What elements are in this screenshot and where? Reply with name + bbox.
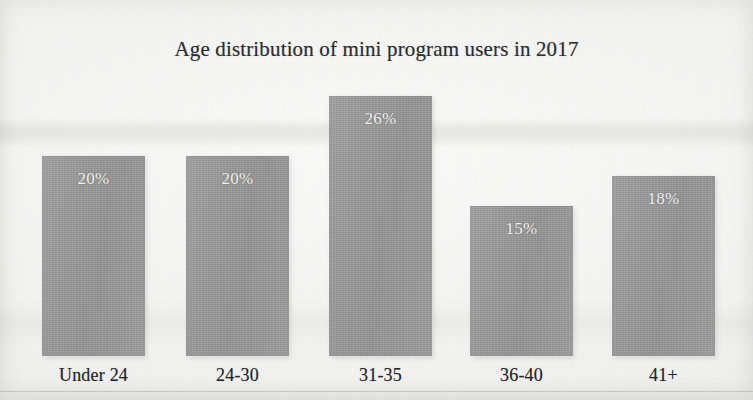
category-label: 36-40 [440, 364, 603, 386]
category-label: 41+ [582, 364, 745, 386]
category-label: 24-30 [156, 364, 319, 386]
bar-31-35 [329, 96, 432, 356]
chart-figure: Age distribution of mini program users i… [0, 0, 753, 400]
bar-value-label: 26% [329, 109, 432, 129]
plot-area: 20%Under 2420%24-3026%31-3515%36-4018%41… [0, 0, 753, 400]
category-label: Under 24 [12, 364, 175, 386]
bar-value-label: 20% [42, 169, 145, 189]
category-label: 31-35 [299, 364, 462, 386]
bar-value-label: 20% [186, 169, 289, 189]
bar-value-label: 15% [470, 219, 573, 239]
bar-value-label: 18% [612, 189, 715, 209]
